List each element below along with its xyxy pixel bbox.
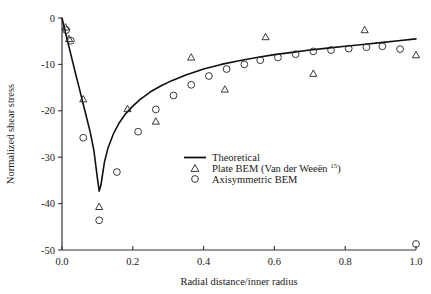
x-tick-label: 0.8 — [339, 256, 352, 267]
x-tick-label: 0.0 — [55, 256, 68, 267]
legend-label-theoretical: Theoretical — [212, 152, 260, 163]
shear-stress-scatter-chart: 0-10-20-30-40-50 0.00.20.40.60.81.0 Radi… — [0, 0, 431, 294]
x-tick-label: 0.2 — [126, 256, 139, 267]
y-tick-label: 0 — [50, 13, 55, 24]
chart-figure: 0-10-20-30-40-50 0.00.20.40.60.81.0 Radi… — [0, 0, 431, 294]
x-axis-title: Radial distance/inner radius — [180, 276, 297, 287]
y-tick-label: -40 — [41, 198, 55, 209]
y-tick-label: -50 — [41, 245, 55, 256]
x-tick-label: 0.6 — [268, 256, 281, 267]
y-axis-title: Normalized shear stress — [5, 84, 16, 184]
legend-plate-suffix: ) — [337, 163, 341, 175]
y-tick-label: -10 — [41, 59, 55, 70]
y-tick-label: -20 — [41, 105, 55, 116]
x-tick-label: 0.4 — [197, 256, 211, 267]
x-tick-label: 1.0 — [409, 256, 422, 267]
legend-label-axisymmetric-bem: Axisymmetric BEM — [212, 174, 298, 185]
y-tick-label: -30 — [41, 152, 55, 163]
